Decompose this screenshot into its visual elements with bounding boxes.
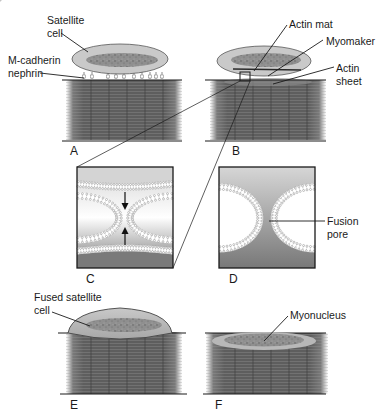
label-pore: pore [327,228,348,240]
panel-d: Fusion pore D [219,167,359,286]
panel-e: Fused satellite cell E [34,291,187,412]
adhesion-pin [90,72,93,80]
label-myonucleus: Myonucleus [290,309,346,321]
panel-label-d: D [229,272,238,286]
adhesion-pin [148,72,151,80]
panel-c: C [0,0,173,286]
satellite-cell [72,44,168,74]
label-fused-cell: cell [34,304,50,316]
label-nephrin: nephrin [8,67,43,79]
label-myomaker: Myomaker [326,35,376,47]
label-m-cadherin: M-cadherin [8,54,61,66]
panel-label-b: B [232,144,240,158]
adhesion-pin [160,72,163,80]
nucleus [86,53,158,67]
panel-f: Myonucleus F [203,309,346,412]
fusion-diagram: Satellite cell M-cadherin nephrin A Acti… [0,0,386,418]
label-sheet-line2: sheet [336,75,362,87]
panel-b: Actin mat Myomaker Actin sheet B [205,18,376,158]
muscle-fiber [205,78,326,141]
panel-label-f: F [215,398,222,412]
panel-label-a: A [70,144,78,158]
label-satellite-cell-line1: Satellite [47,14,85,26]
label-satellite-cell-line2: cell [47,27,63,39]
adhesion-pin [154,72,157,80]
panel-label-c: C [86,272,95,286]
nucleus [231,53,301,67]
adhesion-pin [140,72,143,80]
nucleus [86,318,162,332]
actin-mat [233,69,301,70]
label-actin-line1: Actin [336,62,360,74]
label-fused-satellite: Fused satellite [34,291,102,303]
adhesion-pin [82,72,85,80]
muscle-fiber [58,332,187,394]
actin-sheet [224,78,312,86]
muscle-fiber [62,80,182,141]
bilayer [0,0,1,1]
label-actin-mat: Actin mat [289,18,333,30]
satellite-cell [217,46,311,76]
panel-a: Satellite cell M-cadherin nephrin A [8,14,182,158]
panel-label-e: E [70,398,78,412]
label-fusion: Fusion [327,215,359,227]
